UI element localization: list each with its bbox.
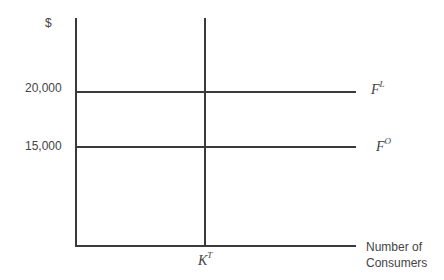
fl-label-base: F — [371, 82, 380, 97]
fl-label: FL — [371, 80, 385, 98]
kt-label-base: K — [198, 253, 207, 268]
fo-line — [75, 146, 356, 148]
fl-label-sup: L — [380, 79, 385, 89]
kt-line — [204, 18, 206, 246]
fo-label-base: F — [376, 139, 385, 154]
kt-label-sup: T — [207, 250, 212, 260]
fl-line — [75, 91, 356, 93]
y-axis — [75, 18, 77, 246]
y-axis-unit-label: $ — [45, 16, 52, 30]
kt-tick-label: KT — [198, 251, 212, 269]
x-axis-title-line2: Consumers — [366, 256, 427, 270]
fo-label: FO — [376, 137, 391, 155]
y-tick-20000: 20,000 — [25, 81, 62, 95]
y-tick-15000: 15,000 — [25, 139, 62, 153]
x-axis — [75, 245, 356, 247]
fo-label-sup: O — [385, 136, 392, 146]
x-axis-title-line1: Number of — [366, 240, 422, 254]
